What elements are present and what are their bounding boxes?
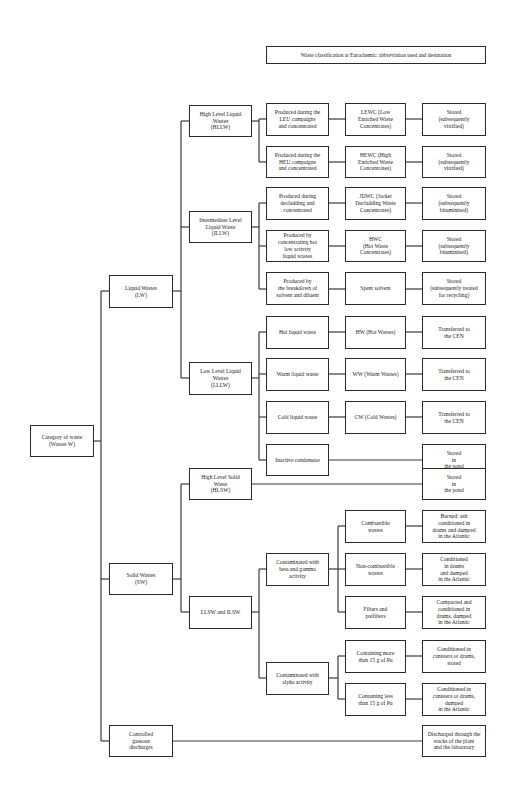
origin-leu: Produced during the LEU campaigns and co…	[266, 103, 329, 136]
origin-hot-low-activity: Produced by concentrating hot low activi…	[266, 230, 329, 262]
dest-filters: Compacted and conditioned in drums, dump…	[422, 596, 486, 629]
dest-hlsw: Stored in the pond	[422, 468, 486, 500]
dest-hewc: Stored (subsequently vitrified)	[422, 146, 486, 178]
dest-spent-solvent: Stored (subsequently treated for recycli…	[422, 272, 486, 305]
node-llsw-ilsw: LLSW and ILSW	[189, 596, 252, 629]
dest-hw: Transferred to the CEN	[422, 316, 486, 349]
abbr-hw: HW (Hot Wastes)	[345, 316, 406, 349]
solid-non-combustible: Non-combustible wastes	[345, 553, 406, 586]
origin-heu: Produced during the HEU campaigns and co…	[266, 146, 329, 178]
abbr-ww: WW (Warm Wastes)	[345, 358, 406, 391]
solid-filters: Filters and prefilters	[345, 596, 406, 629]
node-hlsw: High Level Solid Waste (HLSW)	[189, 468, 252, 500]
node-beta-gamma: Contaminated with beta and gamma activit…	[266, 553, 329, 586]
abbr-hwc: HWC (Hot Waste Concentrates)	[345, 230, 406, 262]
dest-gaseous: Discharged through the stacks of the pla…	[422, 725, 486, 757]
abbr-hewc: HEWC (High Enriched Waste Concentrates)	[345, 146, 406, 178]
dest-combustible: Burned: ash conditioned in drums and dum…	[422, 510, 486, 543]
dest-jdwc: Stored (subsequently bituminised)	[422, 187, 486, 220]
dest-more-15g-pu: Conditioned in canisters or drums, store…	[422, 640, 486, 673]
abbr-spent-solvent: Spent solvent	[345, 272, 406, 305]
abbr-lewc: LEWC (Low Enriched Waste Concentrates)	[345, 103, 406, 136]
abbr-cw: CW (Cold Wastes)	[345, 401, 406, 434]
node-solid-wastes: Solid Wastes (SW)	[109, 563, 173, 595]
dest-cw: Transferred to the CEN	[422, 401, 486, 434]
diagram-title: Waste classification at Eurochemic: abbr…	[266, 46, 486, 64]
node-hllw: High Level Liquid Wastes (HLLW)	[189, 105, 252, 137]
solid-less-15g-pu: Containing less than 15 g of Pu	[345, 683, 406, 716]
origin-decladding: Produced during decladding and concentra…	[266, 187, 329, 220]
solid-more-15g-pu: Containing more than 15 g of Pu	[345, 640, 406, 673]
origin-hot-liquid: Hot liquid waste	[266, 316, 329, 349]
node-alpha: Contaminated with alpha activity	[266, 662, 329, 695]
node-illw: Intermediate Level Liquid Waste (ILLW)	[189, 211, 252, 243]
origin-cold-liquid: Cold liquid waste	[266, 401, 329, 434]
node-liquid-wastes: Liquid Wastes (LW)	[109, 275, 173, 308]
node-category-of-waste: Category of waste (Wastes W)	[30, 425, 94, 457]
solid-combustible: Combustible wastes	[345, 510, 406, 543]
abbr-jdwc: JDWC (Jacket Decladding Waste Concentrat…	[345, 187, 406, 220]
origin-solvent-breakdown: Produced by the breakdown of solvent and…	[266, 272, 329, 305]
dest-less-15g-pu: Conditioned in canisters or drums, dumpe…	[422, 683, 486, 716]
dest-hwc: Stored (subsequently bituminised)	[422, 230, 486, 262]
node-lllw: Low Level Liquid Wastes (LLLW)	[189, 362, 252, 395]
origin-inactive-condensate: Inactive condensate	[266, 444, 329, 476]
node-controlled-gaseous-discharges: Controlled gaseous discharges	[109, 725, 173, 757]
dest-ww: Transferred to the CEN	[422, 358, 486, 391]
dest-non-combustible: Conditioned in drums and dumped in the A…	[422, 553, 486, 586]
dest-lewc: Stored (subsequently vitrified)	[422, 103, 486, 136]
origin-warm-liquid: Warm liquid waste	[266, 358, 329, 391]
